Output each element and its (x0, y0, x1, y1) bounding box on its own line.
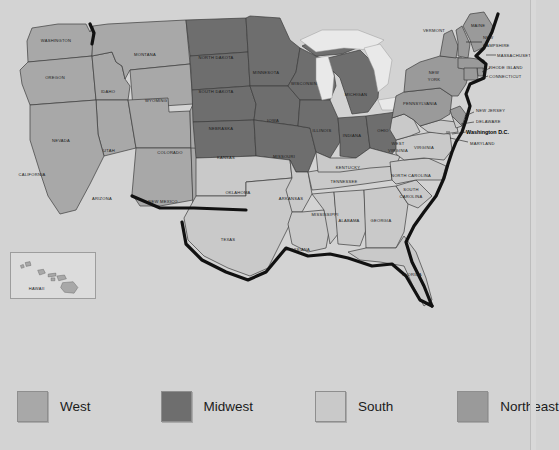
label-connecticut: CONNECTICUT (489, 74, 522, 79)
island-maui (57, 275, 67, 281)
label-new-york-line2: YORK (428, 77, 441, 82)
legend-item-northeast[interactable]: Northeast (457, 391, 559, 422)
hawaii-inset-box: HAWAII (10, 252, 96, 299)
island-kauai (25, 262, 31, 267)
label-south-carolina-line2: CAROLINA (400, 194, 423, 199)
legend-label-midwest: Midwest (204, 399, 254, 414)
label-georgia: GEORGIA (371, 218, 392, 223)
label-indiana: INDIANA (343, 133, 361, 138)
label-new-hampshire-line2: HAMPSHIRE (483, 43, 510, 48)
label-louisiana: LOUISIANA (286, 247, 310, 252)
state-vermont[interactable] (440, 30, 458, 58)
label-florida: FLORIDA (402, 272, 422, 277)
label-vermont: VERMONT (423, 28, 445, 33)
label-oregon: OREGON (45, 75, 65, 80)
label-mississippi: MISSISSIPPI (311, 212, 338, 217)
label-new-jersey: NEW JERSEY (476, 108, 505, 113)
legend-label-west: West (60, 399, 91, 414)
island-niihau (20, 264, 24, 268)
label-kentucky: KENTUCKY (336, 165, 360, 170)
label-rhode-island: RHODE ISLAND (489, 65, 523, 70)
legend-swatch-midwest (161, 391, 192, 422)
legend-label-south: South (358, 399, 393, 414)
label-new-hampshire-line1: NEW (483, 35, 493, 40)
state-minnesota[interactable] (246, 16, 300, 86)
label-south-dakota: SOUTH DAKOTA (199, 89, 234, 94)
label-south-carolina-line1: SOUTH (403, 187, 419, 192)
label-delaware: DELAWARE (476, 119, 501, 124)
island-lanai (51, 278, 55, 281)
label-michigan: MICHIGAN (345, 92, 367, 97)
label-utah: UTAH (103, 148, 115, 153)
right-gutter (531, 0, 536, 450)
label-illinois: ILLINOIS (313, 128, 332, 133)
legend-swatch-south (315, 391, 346, 422)
label-nevada: NEVADA (52, 138, 70, 143)
hawaii-inset-svg: HAWAII (11, 253, 95, 298)
label-missouri: MISSOURI (273, 154, 295, 159)
legend-item-midwest[interactable]: Midwest (161, 391, 254, 422)
label-colorado: COLORADO (157, 150, 182, 155)
label-arkansas: ARKANSAS (279, 196, 303, 201)
label-alabama: ALABAMA (338, 218, 359, 223)
label-ohio: OHIO (377, 128, 388, 133)
label-arizona: ARIZONA (92, 196, 112, 201)
label-maine: MAINE (471, 23, 485, 28)
island-oahu (38, 269, 46, 275)
label-north-carolina: NORTH CAROLINA (391, 173, 431, 178)
hawaii-inset-label: HAWAII (29, 286, 45, 291)
us-map-svg: WASHINGTON OREGON IDAHO MONTANA WYOMING … (0, 0, 536, 380)
label-west-virginia-line1: WEST (392, 141, 405, 146)
label-montana: MONTANA (134, 52, 156, 57)
label-oklahoma: OKLAHOMA (225, 190, 250, 195)
label-maryland: MARYLAND (470, 141, 495, 146)
state-arizona[interactable] (132, 148, 193, 206)
label-new-mexico: NEW MEXICO (148, 199, 177, 204)
label-new-york-line1: NEW (429, 70, 439, 75)
state-utah[interactable] (128, 98, 191, 148)
state-oregon[interactable] (20, 56, 96, 105)
label-minnesota: MINNESOTA (253, 70, 279, 75)
state-north-dakota[interactable] (186, 18, 248, 56)
label-washington-dc: Washington D.C. (466, 129, 509, 135)
label-idaho: IDAHO (101, 89, 115, 94)
label-washington: WASHINGTON (41, 38, 71, 43)
legend-swatch-northeast (457, 391, 488, 422)
island-molokai (48, 273, 56, 277)
label-west-virginia-line2: VIRGINIA (388, 148, 408, 153)
label-virginia: VIRGINIA (414, 145, 434, 150)
state-connecticut[interactable] (464, 68, 478, 80)
label-tennessee: TENNESSEE (330, 179, 357, 184)
label-wyoming: WYOMING (145, 98, 167, 103)
legend-swatch-west (17, 391, 48, 422)
label-kansas: KANSAS (217, 155, 235, 160)
label-california: CALIFORNIA (18, 172, 45, 177)
label-pennsylvania: PENNSYLVANIA (403, 101, 437, 106)
right-edge-divider (530, 0, 531, 450)
map-legend: West Midwest South Northeast (0, 384, 536, 428)
legend-item-west[interactable]: West (17, 391, 91, 422)
label-north-dakota: NORTH DAKOTA (198, 55, 233, 60)
label-wisconsin: WISCONSIN (291, 81, 317, 86)
label-iowa: IOWA (267, 118, 279, 123)
island-hawaii (61, 282, 78, 293)
label-texas: TEXAS (221, 237, 236, 242)
legend-item-south[interactable]: South (315, 391, 393, 422)
label-nebraska: NEBRASKA (209, 126, 233, 131)
state-north-carolina[interactable] (390, 158, 446, 184)
